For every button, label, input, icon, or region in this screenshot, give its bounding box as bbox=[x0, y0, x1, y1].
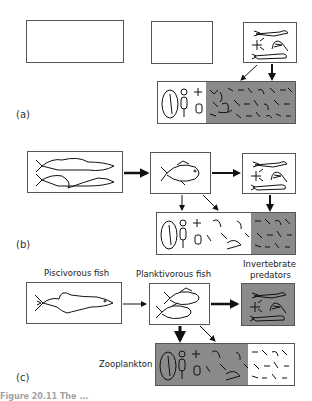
figure-caption: Figure 20.11 The ... bbox=[0, 392, 88, 401]
invertebrate-predators-icon bbox=[242, 284, 295, 326]
planktivore-fish-pair-icon bbox=[150, 284, 210, 325]
c-zooplankton-box bbox=[155, 343, 295, 386]
a-planktivore-box-empty bbox=[151, 21, 213, 64]
planktivore-fish-icon bbox=[151, 153, 211, 194]
a-piscivore-box-empty bbox=[26, 20, 124, 63]
planktivorous-fish-label: Planktivorous fish bbox=[136, 269, 211, 279]
panel-label-b: (b) bbox=[16, 239, 30, 250]
zooplankton-label: Zooplankton bbox=[99, 359, 152, 369]
invertebrate-predators-icon bbox=[244, 23, 297, 63]
c-piscivore-box bbox=[26, 282, 122, 324]
panel-label-a: (a) bbox=[16, 109, 30, 120]
piscivorous-fish-label: Piscivorous fish bbox=[44, 268, 109, 278]
arrow-c-plank-to-zoop-thin bbox=[200, 326, 215, 341]
a-zooplankton-box bbox=[157, 81, 296, 124]
invertebrate-predators-label-line2: predators bbox=[250, 270, 291, 280]
b-invertebrate-box bbox=[242, 153, 296, 194]
arrow-a-invert-to-zoop-thin bbox=[241, 65, 257, 80]
a-invertebrate-box bbox=[243, 22, 297, 63]
zooplankton-icon bbox=[157, 213, 296, 255]
b-piscivore-box bbox=[27, 151, 123, 193]
b-planktivore-box bbox=[150, 152, 211, 194]
invertebrate-predators-label-line1: Invertebrate bbox=[243, 259, 296, 269]
c-planktivore-box bbox=[149, 283, 210, 325]
zooplankton-icon bbox=[156, 344, 295, 386]
invertebrate-predators-icon bbox=[243, 154, 296, 194]
b-zooplankton-box bbox=[156, 212, 296, 255]
pike-pair-icon bbox=[28, 152, 123, 193]
zooplankton-icon bbox=[158, 82, 296, 124]
pike-icon bbox=[27, 283, 122, 324]
arrow-b-plank-to-zoop-2 bbox=[203, 195, 218, 210]
panel-label-c: (c) bbox=[16, 372, 29, 383]
c-invertebrate-box bbox=[241, 283, 295, 326]
